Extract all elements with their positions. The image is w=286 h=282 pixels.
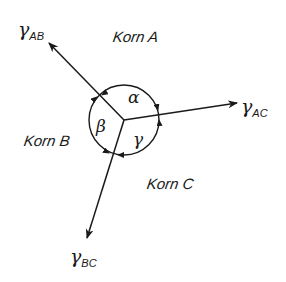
angle-label-alpha: α	[128, 89, 139, 106]
tension-subscript-ac: AC	[252, 107, 267, 119]
tension-subscript-ab: AB	[29, 30, 44, 42]
tension-symbol-ac: γ	[241, 95, 252, 117]
grain-label-b: Korn B	[23, 133, 71, 148]
angle-label-beta: β	[96, 118, 106, 135]
tension-label-bc: γBC	[70, 247, 97, 269]
angle-label-gamma: γ	[133, 131, 143, 148]
tension-label-ab: γAB	[18, 20, 44, 42]
tension-vector-bc	[87, 120, 124, 238]
tension-vector-ac	[124, 103, 237, 120]
grain-label-c: Korn C	[146, 176, 195, 191]
tension-subscript-bc: BC	[81, 257, 96, 269]
tension-symbol-ab: γ	[18, 18, 29, 40]
tension-label-ac: γAC	[241, 97, 268, 119]
tension-symbol-bc: γ	[70, 245, 81, 267]
grain-label-a: Korn A	[112, 29, 159, 44]
tension-vector-ab	[49, 43, 124, 120]
